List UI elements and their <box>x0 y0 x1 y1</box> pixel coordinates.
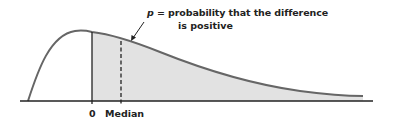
annotation-text: = probability that the difference <box>154 7 328 18</box>
annotation-line-1: p = probability that the difference <box>147 7 328 18</box>
p-symbol: p <box>147 7 154 18</box>
arrowhead-icon <box>131 35 136 41</box>
diagram-stage: p = probability that the difference is p… <box>0 0 394 126</box>
zero-label: 0 <box>89 108 96 119</box>
annotation-arrow <box>133 22 144 38</box>
median-label: Median <box>105 108 144 119</box>
annotation-line-2: is positive <box>178 20 233 31</box>
density-plot <box>0 0 394 126</box>
